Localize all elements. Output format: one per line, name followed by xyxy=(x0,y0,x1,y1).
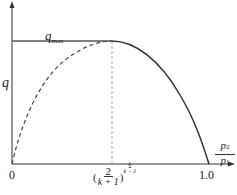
p1-subscript: 1 xyxy=(226,158,230,166)
y-axis-arrow-icon xyxy=(10,1,15,8)
y-axis-label: q xyxy=(2,75,9,91)
p2-subscript: 2 xyxy=(226,143,230,151)
critical-den: k + 1 xyxy=(98,177,119,187)
x-end-label: 1.0 xyxy=(199,168,214,183)
critical-ratio-label: ( 2 k + 1 ) k k − 1 xyxy=(93,166,136,187)
exp-den: k − 1 xyxy=(124,168,137,174)
qmax-symbol: q xyxy=(45,28,52,43)
subsonic-curve xyxy=(112,41,209,164)
exp-num: k xyxy=(129,161,132,168)
qmax-label: qmax xyxy=(45,28,64,44)
x-axis-label: p2 p1 xyxy=(215,140,235,168)
qmax-subscript: max xyxy=(52,37,64,45)
paren-open: ( xyxy=(93,171,97,183)
theoretical-curve-dashed xyxy=(12,41,112,164)
origin-label: 0 xyxy=(9,168,15,183)
